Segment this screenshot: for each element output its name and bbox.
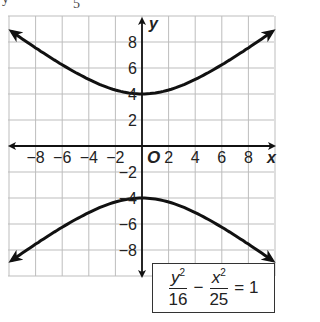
- y-tick-label: 2: [128, 112, 137, 129]
- fraction-x-term: x2 25: [209, 268, 228, 308]
- x-tick-label: 6: [217, 149, 226, 166]
- y-tick-label: −4: [119, 190, 137, 207]
- x-tick-label: 2: [164, 149, 173, 166]
- fraction-y-term: y2 16: [169, 268, 188, 308]
- y-tick-label: 8: [128, 34, 137, 51]
- y-axis-label: y: [148, 15, 159, 32]
- y-tick-label: −2: [119, 164, 137, 181]
- tick-labels: −8−6−4−224688642−2−4−6−8Oxy: [26, 15, 277, 259]
- y-tick-label: 4: [128, 86, 137, 103]
- equals-one: = 1: [234, 278, 258, 298]
- x-axis-label: x: [266, 149, 277, 166]
- x-tick-label: 8: [244, 149, 253, 166]
- x-tick-label: 4: [191, 149, 200, 166]
- origin-label: O: [147, 148, 160, 167]
- x-tick-label: −8: [26, 149, 44, 166]
- equation-box: y2 16 − x2 25 = 1: [152, 263, 275, 313]
- y-tick-label: −8: [119, 242, 137, 259]
- y-tick-label: −6: [119, 216, 137, 233]
- x-tick-label: −6: [53, 149, 71, 166]
- term1-denominator: 16: [169, 289, 188, 308]
- term2-denominator: 25: [209, 289, 228, 308]
- x-tick-label: −4: [80, 149, 98, 166]
- term1-exponent: 2: [179, 267, 185, 278]
- minus-sign: −: [193, 278, 203, 298]
- y-tick-label: 6: [128, 60, 137, 77]
- term2-exponent: 2: [220, 267, 226, 278]
